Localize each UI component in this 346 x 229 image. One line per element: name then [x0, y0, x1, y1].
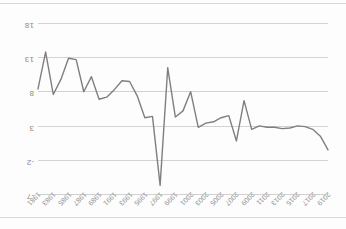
y-tick-label: 8 — [0, 89, 34, 98]
line-chart: -7-2381318 20192017201520132011200920072… — [0, 0, 346, 229]
y-tick-label: 18 — [0, 21, 34, 30]
y-tick-label: 3 — [0, 124, 34, 133]
series-line — [38, 24, 328, 195]
plot-area: -7-2381318 20192017201520132011200920072… — [38, 24, 328, 195]
scanned-page: -7-2381318 20192017201520132011200920072… — [0, 0, 346, 229]
y-tick-label: -2 — [0, 158, 34, 167]
y-tick-label: 13 — [0, 55, 34, 64]
